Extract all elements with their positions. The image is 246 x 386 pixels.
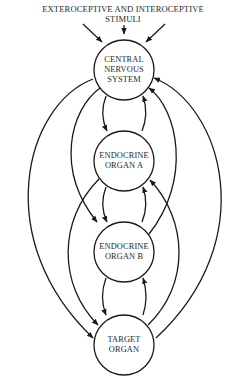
target-node-label: TARGET ORGAN [94,335,154,355]
arrow-target-to-cns [154,78,221,338]
organ-b-node-label: ENDOCRINE ORGAN B [94,242,154,262]
stimulus-arrow-right [146,24,165,42]
arrow-organ-a-to-organ-b [103,187,107,222]
arrow-target-to-organ-b [143,278,146,315]
organ-a-label-line1: ENDOCRINE [94,151,154,161]
arrow-cns-to-target [28,79,93,338]
target-label-line1: TARGET [94,335,154,345]
stimulus-arrow-left [83,24,102,42]
stimuli-title-line1: EXTEROCEPTIVE AND INTEROCEPTIVE [0,4,246,14]
organ-a-label-line2: ORGAN A [94,161,154,171]
target-label-line2: ORGAN [94,345,154,355]
organ-b-label-line1: ENDOCRINE [94,242,154,252]
organ-a-node-label: ENDOCRINE ORGAN A [94,151,154,171]
cns-node-label: CENTRAL NERVOUS SYSTEM [94,55,154,85]
arrow-organ-b-to-target [103,278,107,315]
endocrine-feedback-diagram: EXTEROCEPTIVE AND INTEROCEPTIVE STIMULI … [0,0,246,386]
organ-b-label-line2: ORGAN B [94,252,154,262]
stimuli-title-line2: STIMULI [0,14,246,24]
arrow-organ-b-to-organ-a [142,187,146,222]
arrow-organ-a-to-cns [142,96,146,131]
stimuli-title: EXTEROCEPTIVE AND INTEROCEPTIVE STIMULI [0,4,246,25]
arrow-cns-to-organ-a [103,96,107,131]
cns-label-line1: CENTRAL [94,55,154,65]
cns-label-line2: NERVOUS [94,65,154,75]
cns-label-line3: SYSTEM [94,75,154,85]
